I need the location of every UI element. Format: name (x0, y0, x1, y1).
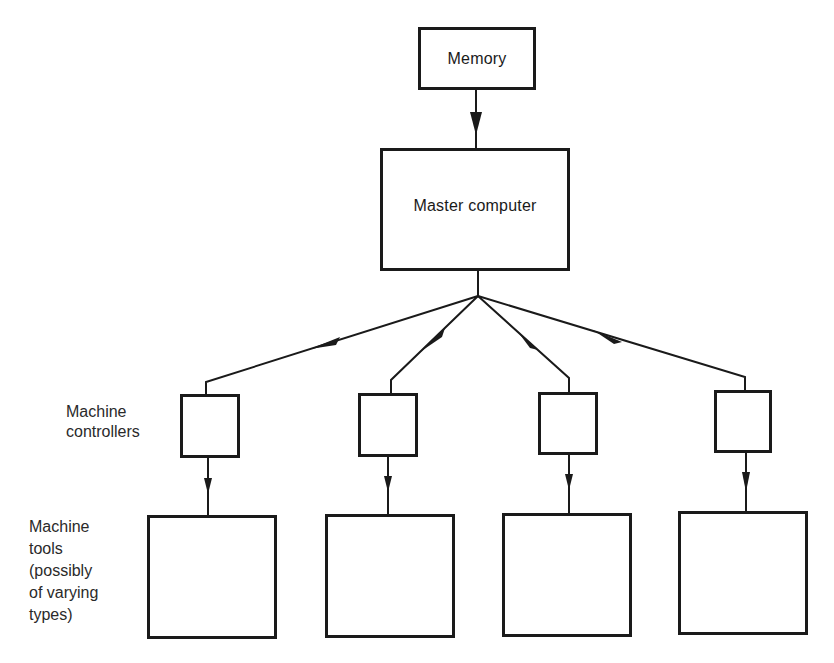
machine-controller-box (358, 393, 418, 457)
memory-box: Memory (418, 27, 536, 90)
master-computer-box: Master computer (380, 148, 570, 271)
machine-controller-box (714, 390, 772, 453)
machine-controller-box (538, 392, 598, 455)
memory-label: Memory (448, 50, 507, 68)
machine-tool-box (678, 511, 808, 635)
machine-controller-box (180, 394, 240, 458)
machine-controllers-label: Machine controllers (66, 402, 140, 442)
machine-tool-box (147, 515, 277, 639)
machine-tool-box (502, 513, 632, 637)
machine-tool-box (325, 514, 455, 638)
machine-tools-label: Machine tools (possibly of varying types… (29, 516, 98, 626)
master-computer-label: Master computer (413, 197, 536, 215)
